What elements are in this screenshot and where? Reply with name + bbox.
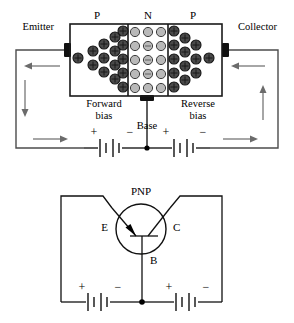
base-junction-node bbox=[144, 145, 149, 150]
right-current-loop-wire bbox=[210, 50, 278, 148]
label-collector: Collector bbox=[238, 21, 278, 32]
right-p-carriers bbox=[169, 26, 214, 92]
label-right-p-region: P bbox=[190, 9, 196, 21]
arrow-top-left bbox=[24, 63, 60, 70]
label-reverse-bias-line1: Reverse bbox=[181, 98, 215, 109]
collector-terminal-pad bbox=[222, 43, 229, 57]
bottom-right-battery-minus: − bbox=[203, 280, 210, 294]
bottom-junction-node bbox=[139, 299, 145, 305]
arrow-right-up bbox=[260, 85, 267, 120]
arrow-bottom-right bbox=[223, 136, 258, 143]
figure-root: + − + − bbox=[0, 0, 294, 323]
bottom-right-battery-plus: + bbox=[166, 280, 173, 294]
top-left-battery-plus: + bbox=[91, 125, 98, 139]
label-emitter-terminal: E bbox=[101, 221, 108, 233]
label-base-terminal: B bbox=[150, 254, 157, 266]
label-forward-bias-line1: Forward bbox=[86, 98, 122, 109]
bottom-left-battery-minus: − bbox=[115, 280, 122, 294]
label-left-p-region: P bbox=[94, 9, 100, 21]
top-diagram-group: + − + − bbox=[16, 9, 278, 157]
left-current-loop-wire bbox=[16, 50, 84, 148]
top-right-battery-minus: − bbox=[200, 125, 207, 139]
arrow-bottom-left bbox=[33, 136, 68, 143]
transistor-envelope bbox=[116, 204, 166, 254]
bottom-left-battery bbox=[88, 293, 107, 311]
n-region-carriers bbox=[130, 27, 165, 92]
top-left-battery bbox=[100, 139, 119, 157]
label-base: Base bbox=[137, 120, 158, 131]
label-forward-bias-line2: bias bbox=[96, 110, 113, 121]
arrow-top-right bbox=[231, 63, 265, 70]
label-pnp: PNP bbox=[131, 185, 151, 197]
arrow-left-down bbox=[22, 80, 29, 117]
label-n-region: N bbox=[144, 9, 152, 21]
top-right-battery bbox=[174, 139, 193, 157]
bottom-left-battery-plus: + bbox=[79, 280, 86, 294]
label-reverse-bias-line2: bias bbox=[190, 110, 207, 121]
top-right-battery-plus: + bbox=[163, 125, 170, 139]
bottom-diagram-group: + − + − PNP E C B bbox=[61, 185, 222, 311]
top-left-battery-minus: − bbox=[127, 125, 134, 139]
label-collector-terminal: C bbox=[173, 221, 180, 233]
bottom-right-battery bbox=[176, 293, 195, 311]
pnp-figure-svg: + − + − bbox=[0, 0, 294, 323]
label-emitter: Emitter bbox=[23, 21, 55, 32]
left-p-carriers bbox=[73, 26, 128, 92]
